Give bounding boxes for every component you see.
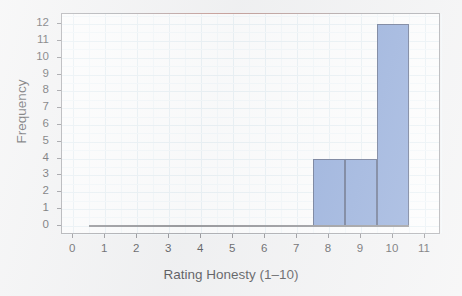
- x-tick-mark: [392, 234, 393, 238]
- x-tick-label: 9: [345, 242, 375, 254]
- y-tick-mark: [57, 90, 61, 91]
- x-tick-label: 10: [377, 242, 407, 254]
- gridline-vertical: [441, 14, 442, 233]
- x-tick-label: 8: [313, 242, 343, 254]
- y-tick-label: 2: [27, 184, 49, 196]
- y-tick-mark: [57, 141, 61, 142]
- x-axis-title: Rating Honesty (1–10): [0, 267, 462, 282]
- y-tick-mark: [57, 191, 61, 192]
- y-tick-mark: [57, 40, 61, 41]
- y-tick-mark: [57, 208, 61, 209]
- x-tick-mark: [424, 234, 425, 238]
- y-tick-label: 8: [27, 83, 49, 95]
- x-tick-mark: [296, 234, 297, 238]
- y-axis-title: Frequency: [14, 47, 29, 177]
- x-tick-label: 7: [281, 242, 311, 254]
- x-tick-mark: [104, 234, 105, 238]
- y-tick-mark: [57, 225, 61, 226]
- y-tick-label: 5: [27, 134, 49, 146]
- x-tick-label: 4: [185, 242, 215, 254]
- y-tick-label: 3: [27, 167, 49, 179]
- x-tick-label: 5: [217, 242, 247, 254]
- x-tick-mark: [328, 234, 329, 238]
- gridline-horizontal: [62, 234, 439, 235]
- y-tick-label: 12: [27, 16, 49, 28]
- y-tick-mark: [57, 57, 61, 58]
- x-tick-label: 11: [409, 242, 439, 254]
- y-tick-label: 0: [27, 218, 49, 230]
- y-tick-label: 4: [27, 151, 49, 163]
- x-tick-mark: [232, 234, 233, 238]
- y-tick-mark: [57, 107, 61, 108]
- plot-area: [61, 13, 440, 234]
- x-tick-label: 0: [57, 242, 87, 254]
- y-tick-mark: [57, 23, 61, 24]
- y-tick-mark: [57, 74, 61, 75]
- x-tick-mark: [72, 234, 73, 238]
- zero-baseline: [89, 225, 409, 227]
- y-tick-label: 11: [27, 33, 49, 45]
- baseline-group: [62, 14, 439, 233]
- x-tick-mark: [200, 234, 201, 238]
- x-tick-mark: [168, 234, 169, 238]
- y-tick-label: 10: [27, 50, 49, 62]
- x-tick-label: 6: [249, 242, 279, 254]
- y-tick-label: 6: [27, 117, 49, 129]
- y-tick-label: 1: [27, 201, 49, 213]
- x-tick-mark: [360, 234, 361, 238]
- x-tick-label: 3: [153, 242, 183, 254]
- y-tick-mark: [57, 124, 61, 125]
- y-tick-label: 9: [27, 67, 49, 79]
- x-tick-mark: [264, 234, 265, 238]
- x-tick-label: 1: [89, 242, 119, 254]
- y-tick-label: 7: [27, 100, 49, 112]
- y-tick-mark: [57, 158, 61, 159]
- histogram-figure: 01234567891011 0123456789101112 Rating H…: [0, 0, 462, 296]
- x-tick-mark: [136, 234, 137, 238]
- x-tick-label: 2: [121, 242, 151, 254]
- y-tick-mark: [57, 174, 61, 175]
